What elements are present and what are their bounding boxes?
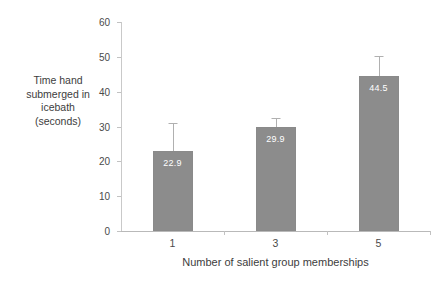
x-tick-divider-3 bbox=[430, 231, 431, 235]
y-tick-60: 60 bbox=[117, 22, 121, 23]
y-tick-50: 50 bbox=[117, 57, 121, 58]
bar-category-3[interactable]: 29.9 bbox=[256, 127, 296, 231]
x-tick-divider-1 bbox=[224, 231, 225, 235]
y-tick-label-60: 60 bbox=[99, 17, 110, 28]
bar-value-label-1: 22.9 bbox=[154, 158, 192, 168]
error-bar-cap-1 bbox=[168, 123, 177, 124]
error-bar-cap-3 bbox=[271, 118, 280, 119]
bar-category-1[interactable]: 22.9 bbox=[153, 151, 193, 231]
bar-value-label-5: 44.5 bbox=[360, 83, 398, 93]
y-tick-label-20: 20 bbox=[99, 156, 110, 167]
y-tick-30: 30 bbox=[117, 127, 121, 128]
y-tick-label-40: 40 bbox=[99, 86, 110, 97]
y-tick-40: 40 bbox=[117, 92, 121, 93]
y-axis-title: Time hand submerged in icebath (seconds) bbox=[8, 74, 108, 128]
y-axis-title-line-4: (seconds) bbox=[8, 115, 108, 129]
error-bar-cap-5 bbox=[374, 56, 383, 57]
x-tick-label-3: 3 bbox=[273, 237, 279, 249]
y-axis-line bbox=[121, 22, 122, 231]
bar-chart-figure: Time hand submerged in icebath (seconds)… bbox=[0, 0, 445, 282]
y-axis-title-line-3: icebath bbox=[8, 101, 108, 115]
y-axis-title-line-1: Time hand bbox=[8, 74, 108, 88]
y-tick-20: 20 bbox=[117, 161, 121, 162]
y-tick-label-0: 0 bbox=[104, 226, 110, 237]
y-tick-label-30: 30 bbox=[99, 121, 110, 132]
error-bar-3 bbox=[276, 118, 277, 127]
bar-value-label-3: 29.9 bbox=[257, 134, 295, 144]
y-tick-label-10: 10 bbox=[99, 191, 110, 202]
plot-area: 0102030405060 135 22.929.944.5 bbox=[121, 22, 430, 231]
x-tick-label-1: 1 bbox=[170, 237, 176, 249]
bar-category-5[interactable]: 44.5 bbox=[359, 76, 399, 231]
x-tick-divider-2 bbox=[327, 231, 328, 235]
y-tick-10: 10 bbox=[117, 196, 121, 197]
x-axis-title: Number of salient group memberships bbox=[121, 256, 430, 268]
y-tick-0: 0 bbox=[117, 231, 121, 232]
y-tick-label-50: 50 bbox=[99, 51, 110, 62]
error-bar-5 bbox=[379, 56, 380, 76]
y-axis-title-line-2: submerged in bbox=[8, 88, 108, 102]
x-axis-line bbox=[121, 231, 430, 232]
x-tick-label-5: 5 bbox=[376, 237, 382, 249]
error-bar-1 bbox=[173, 123, 174, 151]
